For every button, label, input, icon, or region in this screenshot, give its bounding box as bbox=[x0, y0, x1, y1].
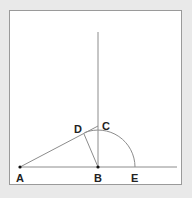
point-b bbox=[96, 165, 99, 168]
segment-bd bbox=[84, 134, 98, 167]
geometry-diagram: A B E C D bbox=[0, 0, 192, 198]
label-d: D bbox=[74, 123, 82, 135]
arc-e-to-d bbox=[85, 130, 136, 167]
label-b: B bbox=[94, 172, 102, 184]
label-a: A bbox=[16, 172, 24, 184]
label-c: C bbox=[102, 120, 110, 132]
point-a bbox=[18, 165, 21, 168]
label-e: E bbox=[131, 172, 138, 184]
